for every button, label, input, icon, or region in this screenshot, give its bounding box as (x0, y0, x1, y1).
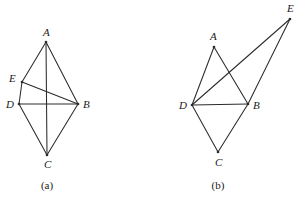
diagram-content-group: AEDBC(a)AEDBC(b) (5, 2, 294, 192)
vertex-label-A: A (209, 30, 217, 42)
vertex-point-A (45, 41, 48, 44)
segment-DC (192, 105, 218, 152)
geometry-diagram-svg: AEDBC(a)AEDBC(b) (0, 0, 308, 203)
vertex-label-B: B (253, 99, 260, 111)
segment-AC (46, 42, 47, 155)
vertex-point-E (21, 81, 24, 84)
segment-AB (214, 47, 248, 104)
vertex-point-E (289, 18, 292, 21)
vertex-point-C (46, 154, 49, 157)
vertex-label-C: C (215, 156, 223, 168)
panel-b-edges (192, 19, 290, 152)
vertex-label-B: B (83, 98, 90, 110)
panel-a-caption: (a) (41, 179, 54, 192)
vertex-label-A: A (42, 26, 50, 38)
panel-a: AEDBC(a) (5, 26, 90, 192)
segment-BE (248, 19, 290, 104)
segment-DC (19, 104, 47, 155)
vertex-label-E: E (8, 72, 16, 84)
panel-b: AEDBC(b) (178, 2, 294, 192)
segment-CB (47, 104, 78, 155)
vertex-point-B (77, 103, 80, 106)
vertex-label-D: D (178, 99, 187, 111)
vertex-point-D (18, 103, 21, 106)
segment-DB (192, 104, 248, 105)
vertex-label-C: C (44, 158, 52, 170)
panel-a-edges (19, 42, 78, 155)
segment-AD (192, 47, 214, 105)
vertex-point-A (213, 46, 216, 49)
vertex-point-D (191, 104, 194, 107)
segment-EB (22, 82, 78, 104)
segment-AB (46, 42, 78, 104)
vertex-label-E: E (286, 2, 294, 14)
geometry-figure-board: AEDBC(a)AEDBC(b) (0, 0, 308, 203)
segment-AE (22, 42, 46, 82)
vertex-point-B (247, 103, 250, 106)
vertex-label-D: D (5, 98, 14, 110)
vertex-point-C (217, 151, 220, 154)
segment-ED (19, 82, 22, 104)
segment-CB (218, 104, 248, 152)
panel-b-caption: (b) (212, 179, 225, 192)
